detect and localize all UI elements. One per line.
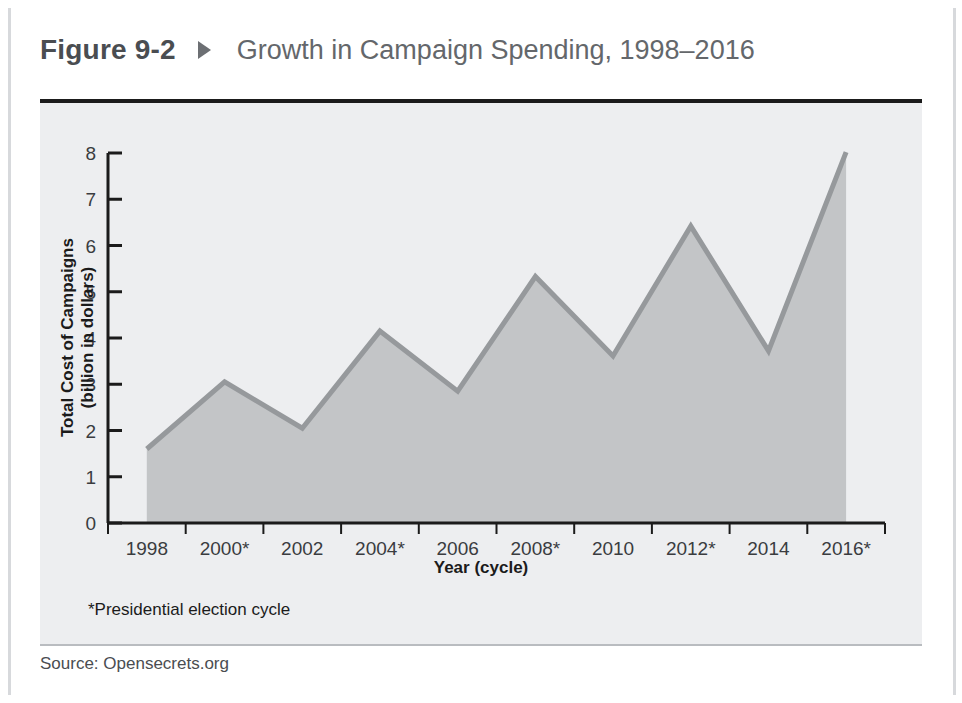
x-tick-label: 2010 [592, 538, 634, 559]
x-tick-label: 2000* [200, 538, 250, 559]
x-tick-label: 2004* [355, 538, 405, 559]
x-tick-label: 2006 [437, 538, 479, 559]
y-tick-label: 8 [85, 143, 96, 164]
x-tick-label: 2016* [821, 538, 871, 559]
chart-panel: 012345678 19982000*20022004*20062008*201… [40, 99, 922, 644]
figure-left-rule [8, 8, 11, 695]
x-tick-label: 1998 [126, 538, 168, 559]
y-axis-title: Total Cost of Campaigns (billion in doll… [58, 183, 97, 493]
y-tick-label: 0 [85, 513, 96, 534]
x-tick-label: 2002 [281, 538, 323, 559]
right-triangle-icon [198, 41, 211, 59]
chart-footnote: *Presidential election cycle [88, 600, 290, 620]
y-axis-title-line2: (billion in dollars) [78, 183, 98, 493]
x-axis-title: Year (cycle) [40, 558, 922, 578]
x-tick-label: 2014 [747, 538, 790, 559]
source-divider [40, 644, 922, 646]
figure-right-rule [953, 8, 956, 695]
figure-title: Growth in Campaign Spending, 1998–2016 [237, 35, 755, 66]
figure-title-row: Figure 9-2 Growth in Campaign Spending, … [40, 28, 755, 72]
x-tick-label: 2008* [511, 538, 561, 559]
x-axis-ticks: 19982000*20022004*20062008*20102012*2014… [108, 523, 885, 559]
x-tick-label: 2012* [666, 538, 716, 559]
source-note: Source: Opensecrets.org [40, 654, 229, 674]
figure-root: Figure 9-2 Growth in Campaign Spending, … [0, 0, 962, 703]
figure-number-label: Figure 9-2 [40, 34, 176, 66]
y-axis-title-line1: Total Cost of Campaigns [58, 183, 78, 493]
plot-area: 012345678 19982000*20022004*20062008*201… [40, 103, 922, 648]
